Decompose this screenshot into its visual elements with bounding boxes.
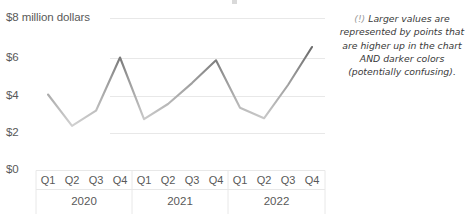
x-tick-q4-2021: Q4 — [204, 174, 228, 186]
x-group-label-2022: 2022 — [228, 195, 325, 207]
x-tick-q1-2022: Q1 — [228, 174, 252, 186]
chart-screenshot: $8 million dollars $6 $4 $2 $0 — [0, 0, 474, 224]
x-tick-q1-2020: Q1 — [36, 174, 60, 186]
x-tick-q3-2021: Q3 — [180, 174, 204, 186]
x-tick-q2-2021: Q2 — [156, 174, 180, 186]
x-tick-q2-2022: Q2 — [252, 174, 276, 186]
warning-icon: (!) — [354, 13, 365, 24]
x-tick-q3-2022: Q3 — [276, 174, 300, 186]
x-tick-q1-2021: Q1 — [132, 174, 156, 186]
x-tick-q4-2020: Q4 — [108, 174, 132, 186]
x-tick-q3-2020: Q3 — [84, 174, 108, 186]
plot-area — [0, 0, 336, 224]
x-group-label-2021: 2021 — [132, 195, 228, 207]
x-tick-q2-2020: Q2 — [60, 174, 84, 186]
line-chart: $8 million dollars $6 $4 $2 $0 — [0, 0, 336, 224]
x-tick-q4-2022: Q4 — [300, 174, 324, 186]
annotation-note: (!) Larger values are represented by poi… — [332, 12, 472, 78]
x-group-label-2020: 2020 — [36, 195, 132, 207]
